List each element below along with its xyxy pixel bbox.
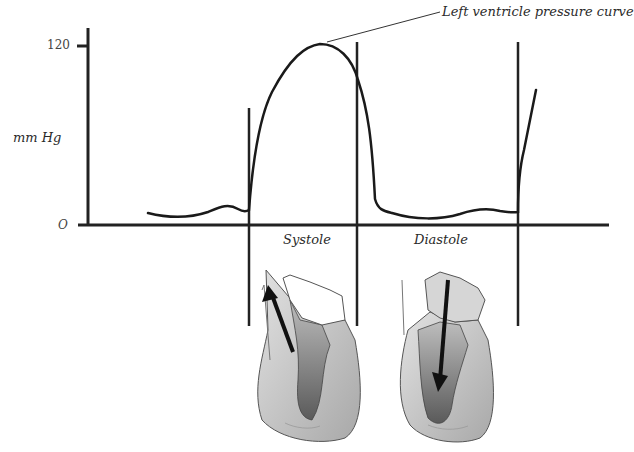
y-axis-label: mm Hg (13, 130, 61, 145)
pressure-curve (148, 44, 536, 218)
y-tick-label-0: O (58, 218, 68, 232)
annotation-label: Left ventricle pressure curve (442, 4, 634, 19)
y-tick-label-120: 120 (47, 38, 70, 52)
heart-diastole-illustration (400, 272, 493, 442)
phase-label-diastole: Diastole (414, 232, 468, 247)
phase-label-systole: Systole (283, 232, 331, 247)
annotation-leader (327, 12, 440, 42)
heart-systole-illustration (258, 270, 361, 441)
